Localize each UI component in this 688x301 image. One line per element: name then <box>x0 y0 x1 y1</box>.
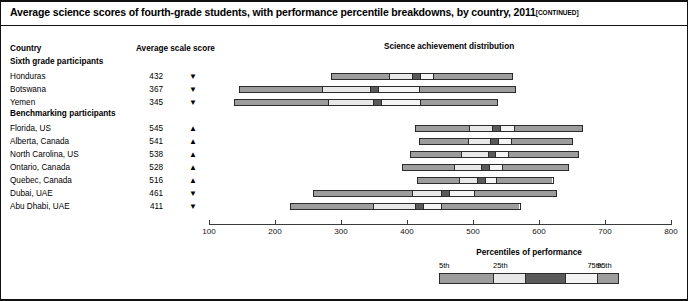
axis-line <box>209 224 671 225</box>
row-country-label: Dubai, UAE <box>10 187 53 200</box>
arrow-down-icon: ▼ <box>187 96 199 109</box>
legend-bar <box>439 273 619 284</box>
legend-segment <box>493 274 525 283</box>
legend-segment <box>565 274 597 283</box>
row-country-label: Quebec, Canada <box>10 174 72 187</box>
group-header: Sixth grade participants <box>10 57 103 66</box>
arrow-up-icon: ▲ <box>187 122 199 135</box>
arrow-down-icon: ▼ <box>187 187 199 200</box>
axis-tick <box>275 220 276 225</box>
row-average-scale-score: 461 <box>137 187 163 200</box>
row-country-label: Abu Dhabi, UAE <box>10 200 70 213</box>
axis-tick <box>539 220 540 225</box>
legend-segment <box>525 274 564 283</box>
legend-labels: 5th25th75th95th <box>439 261 619 272</box>
row-average-scale-score: 528 <box>137 161 163 174</box>
arrow-up-icon: ▲ <box>187 148 199 161</box>
arrow-down-icon: ▼ <box>187 83 199 96</box>
axis-tick-label: 300 <box>334 227 347 236</box>
legend-title: Percentiles of performance <box>439 248 619 257</box>
row-average-scale-score: 538 <box>137 148 163 161</box>
row-country-label: Honduras <box>10 70 46 83</box>
axis-tick <box>407 220 408 225</box>
axis-tick-label: 400 <box>400 227 413 236</box>
figure-page: Average science scores of fourth-grade s… <box>0 0 688 301</box>
row-country-label: Yemen <box>10 96 35 109</box>
axis-tick-label: 500 <box>466 227 479 236</box>
arrow-up-icon: ▲ <box>187 135 199 148</box>
axis-tick <box>209 220 210 225</box>
axis-tick <box>341 220 342 225</box>
arrow-down-icon: ▼ <box>187 200 199 213</box>
axis-tick-label: 700 <box>598 227 611 236</box>
legend-segment <box>440 274 493 283</box>
axis-tick <box>473 220 474 225</box>
legend-label: 25th <box>493 261 508 270</box>
legend-segment <box>597 274 618 283</box>
group-header: Benchmarking participants <box>10 109 116 118</box>
row-country-label: Ontario, Canada <box>10 161 70 174</box>
row-country-label: Florida, US <box>10 122 51 135</box>
axis-tick <box>605 220 606 225</box>
arrow-up-icon: ▲ <box>187 174 199 187</box>
row-average-scale-score: 367 <box>137 83 163 96</box>
row-average-scale-score: 545 <box>137 122 163 135</box>
axis-tick-label: 600 <box>532 227 545 236</box>
arrow-down-icon: ▼ <box>187 70 199 83</box>
axis-tick <box>671 220 672 225</box>
row-average-scale-score: 345 <box>137 96 163 109</box>
row-average-scale-score: 541 <box>137 135 163 148</box>
row-country-label: Alberta, Canada <box>10 135 69 148</box>
row-average-scale-score: 432 <box>137 70 163 83</box>
x-axis: 100200300400500600700800 <box>1 224 688 246</box>
axis-tick-label: 100 <box>202 227 215 236</box>
legend-label: 5th <box>439 261 449 270</box>
row-country-label: North Carolina, US <box>10 148 79 161</box>
row-average-scale-score: 411 <box>137 200 163 213</box>
axis-tick-label: 200 <box>268 227 281 236</box>
arrow-up-icon: ▲ <box>187 161 199 174</box>
legend-label: 95th <box>597 261 612 270</box>
row-average-scale-score: 516 <box>137 174 163 187</box>
axis-tick-label: 800 <box>664 227 677 236</box>
row-country-label: Botswana <box>10 83 46 96</box>
